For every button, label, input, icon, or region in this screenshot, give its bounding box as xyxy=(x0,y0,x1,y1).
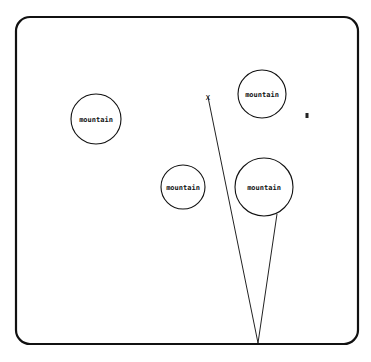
agent-marker-icon xyxy=(306,113,309,118)
mountain: mountain xyxy=(161,165,205,209)
mountain: mountain xyxy=(235,158,293,216)
mountain-label: mountain xyxy=(247,184,281,192)
mountain-label: mountain xyxy=(166,184,200,192)
mountain: mountain xyxy=(238,70,286,118)
mountain-layer: mountainmountainmountainmountain xyxy=(71,70,293,216)
mountain-label: mountain xyxy=(245,91,279,99)
sight-lines xyxy=(208,97,277,343)
map-canvas: mountainmountainmountainmountain x xyxy=(0,0,371,362)
mountain: mountain xyxy=(71,94,121,144)
sight-line xyxy=(258,214,277,343)
sight-line xyxy=(208,97,258,343)
mountain-label: mountain xyxy=(79,116,113,124)
target-x-marker: x xyxy=(206,93,211,102)
